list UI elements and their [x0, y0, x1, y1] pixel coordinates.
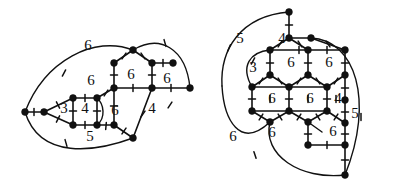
outer-arc-right	[133, 44, 190, 88]
face-size-label: 3	[249, 59, 257, 75]
graph-vertex	[305, 119, 312, 126]
graph-vertex	[342, 172, 349, 179]
graph-vertex	[342, 142, 349, 149]
graph-vertex	[111, 60, 118, 67]
graph-vertex	[94, 95, 101, 102]
face-size-label: 3	[60, 100, 68, 116]
face-size-label: 6	[87, 72, 95, 88]
graph-figure: 666634645543666645666	[0, 0, 395, 189]
graph-vertex	[267, 47, 274, 54]
graph-vertex	[305, 142, 312, 149]
graph-vertex	[342, 47, 349, 54]
face-size-label: 6	[306, 90, 314, 106]
face-size-label: 6	[329, 123, 337, 139]
face-size-label: 4	[81, 100, 89, 116]
graph-vertex	[305, 72, 312, 79]
edge-tick-mark	[168, 102, 172, 108]
graph-vertex	[324, 84, 331, 91]
graph-vertex	[111, 85, 118, 92]
graph-vertex	[187, 85, 194, 92]
face-size-label: 5	[86, 128, 94, 144]
edge-tick-mark	[65, 140, 67, 147]
straight-edges-layer	[25, 12, 345, 175]
face-size-label: 6	[268, 124, 276, 140]
vertices-layer	[22, 9, 349, 179]
face-size-label: 6	[111, 102, 119, 118]
graph-vertex	[305, 47, 312, 54]
graph-vertex	[22, 109, 29, 116]
graph-vertex	[342, 120, 349, 127]
graph-vertex	[149, 60, 156, 67]
graph-vertex	[286, 108, 293, 115]
face-size-label: 6	[84, 37, 92, 53]
face-size-label: 6	[325, 54, 333, 70]
face-size-label: 4	[334, 90, 342, 106]
face-size-label: 5	[351, 105, 359, 121]
graph-vertex	[149, 85, 156, 92]
graph-vertex	[111, 122, 118, 129]
graph-vertex	[342, 97, 349, 104]
graph-vertex	[324, 108, 331, 115]
face-size-label: 5	[236, 30, 244, 46]
face-size-label: 6	[229, 128, 237, 144]
graph-vertex	[286, 84, 293, 91]
edge-tick-mark	[106, 123, 107, 130]
graph-vertex	[249, 108, 256, 115]
graph-vertex	[342, 72, 349, 79]
graph-vertex	[70, 122, 77, 129]
graph-vertex	[170, 60, 177, 67]
graph-vertex	[249, 84, 256, 91]
graph-vertex	[70, 95, 77, 102]
graph-vertex	[286, 9, 293, 16]
face-size-label: 6	[287, 54, 295, 70]
face-size-label: 4	[148, 100, 156, 116]
figure-container: 666634645543666645666	[0, 0, 395, 189]
edge-tick-mark	[254, 152, 256, 159]
graph-vertex	[130, 135, 137, 142]
outer-arc-left-lower	[222, 86, 270, 133]
graph-vertex	[94, 122, 101, 129]
graph-vertex	[308, 35, 315, 42]
face-size-label: 6	[163, 70, 171, 86]
face-size-label: 4	[278, 30, 286, 46]
face-size-label: 6	[268, 90, 276, 106]
graph-vertex	[130, 47, 137, 54]
face-size-label: 6	[127, 66, 135, 82]
edge-tick-mark	[62, 70, 65, 76]
graph-vertex	[41, 109, 48, 116]
graph-vertex	[286, 35, 293, 42]
graph-vertex	[267, 72, 274, 79]
